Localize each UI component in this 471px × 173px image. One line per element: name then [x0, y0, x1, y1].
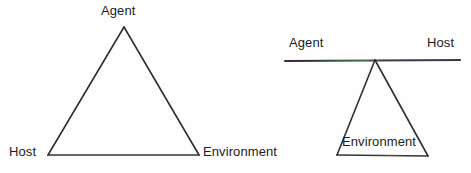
balance-bar-left-label: Agent — [289, 35, 323, 50]
balance-bar-right-label: Host — [427, 35, 454, 50]
left-triangle-bottom-right-label: Environment — [203, 144, 277, 159]
balance-bar — [285, 60, 460, 61]
figure-root: Agent Host Environment Agent Host Enviro… — [0, 0, 471, 173]
right-triangle-base-edge — [337, 155, 428, 156]
left-triangle-apex-label: Agent — [101, 3, 135, 18]
right-triangle-inner-label: Environment — [342, 134, 416, 149]
left-triangle-bottom-left-label: Host — [9, 144, 36, 159]
